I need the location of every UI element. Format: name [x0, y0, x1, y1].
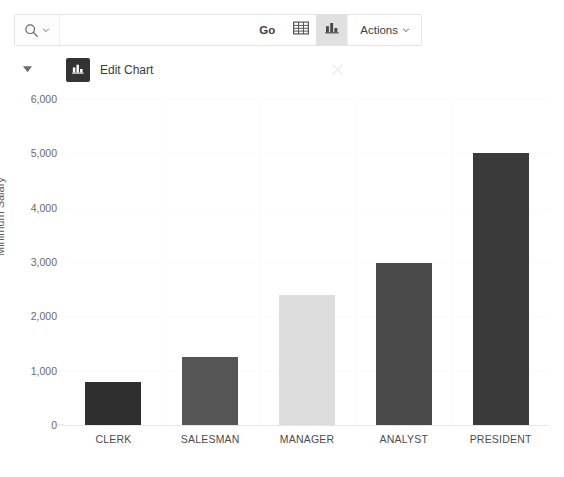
y-axis-tick-label: 1,000 — [31, 365, 57, 377]
y-axis-tick-label: 6,000 — [31, 93, 57, 105]
y-axis-tick-label: 4,000 — [31, 202, 57, 214]
x-axis-line — [65, 425, 549, 426]
actions-button-label: Actions — [360, 24, 398, 36]
search-icon — [24, 23, 39, 38]
edit-chart-icon-button[interactable] — [66, 58, 90, 82]
bar-chart-icon — [71, 61, 85, 79]
table-grid-icon — [293, 21, 309, 39]
search-dropdown-button[interactable] — [15, 15, 60, 45]
grid-line — [65, 99, 549, 100]
x-axis-tick-label: CLERK — [95, 433, 131, 445]
grid-line-vertical — [452, 99, 453, 425]
chart-bar[interactable] — [182, 357, 238, 425]
search-input[interactable] — [60, 15, 249, 45]
x-axis-tick-label: MANAGER — [280, 433, 335, 445]
x-axis-tick-label: SALESMAN — [181, 433, 240, 445]
chart-bar[interactable] — [376, 263, 432, 425]
chart-container: Minimum Salary 01,0002,0003,0004,0005,00… — [0, 88, 564, 477]
bar-chart-icon — [324, 21, 340, 39]
y-axis-tick-label: 2,000 — [31, 310, 57, 322]
y-axis-tick-mark — [57, 425, 64, 426]
view-chart-button[interactable] — [316, 15, 347, 45]
plot-area — [65, 99, 549, 425]
x-axis-tick-label: ANALYST — [380, 433, 428, 445]
x-axis-tick-label: PRESIDENT — [470, 433, 532, 445]
y-axis-tick-label: 3,000 — [31, 256, 57, 268]
chart-bar[interactable] — [279, 295, 335, 425]
chart-bar[interactable] — [85, 382, 141, 425]
edit-chart-label[interactable]: Edit Chart — [100, 63, 153, 77]
chart-page: Go — [0, 0, 564, 477]
chevron-down-icon — [42, 26, 50, 34]
triangle-down-icon — [23, 65, 32, 75]
y-axis-tick-label: 5,000 — [31, 147, 57, 159]
collapse-toggle-button[interactable] — [14, 65, 40, 75]
go-button-label: Go — [259, 24, 275, 36]
edit-chart-header: Edit Chart — [14, 55, 354, 85]
go-button[interactable]: Go — [249, 15, 285, 45]
grid-line-vertical — [162, 99, 163, 425]
grid-line-vertical — [259, 99, 260, 425]
close-icon[interactable] — [329, 61, 345, 77]
chevron-down-icon — [402, 24, 410, 36]
grid-line-vertical — [355, 99, 356, 425]
y-axis-ticks: 01,0002,0003,0004,0005,0006,000 — [0, 99, 57, 425]
interactive-report-toolbar: Go — [14, 14, 422, 46]
actions-menu-button[interactable]: Actions — [347, 15, 421, 45]
chart-bar[interactable] — [473, 153, 529, 425]
view-report-button[interactable] — [285, 15, 316, 45]
